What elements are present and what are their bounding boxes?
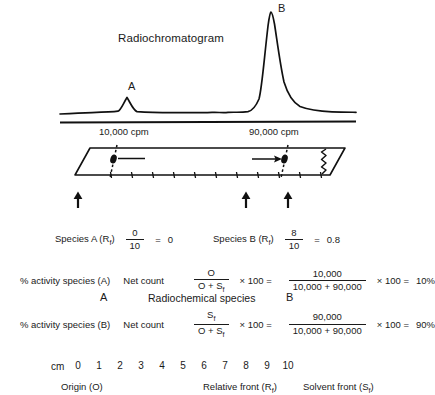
origin-arrow-icon xyxy=(74,192,83,209)
percent-a-numeric-denominator: 10,000 + 90,000 xyxy=(289,280,366,292)
ruler-tick-6: 6 xyxy=(196,360,212,371)
rf-species-b-equals: = xyxy=(314,234,320,245)
rf-species-b-fraction: 8 10 xyxy=(285,228,304,252)
caption-solvent-front-end: ) xyxy=(371,381,374,392)
ruler-tick-2: 2 xyxy=(112,360,128,371)
ruler-tick-5: 5 xyxy=(175,360,191,371)
rf-species-a-result: 0 xyxy=(168,234,173,245)
ruler-panel: cm 0 1 2 3 4 5 6 7 8 9 10 Origin (O) Rel… xyxy=(0,175,405,223)
percent-b-symbolic-denominator: O + Sf xyxy=(194,324,229,339)
chromatogram-baseline-axis xyxy=(60,122,356,123)
ruler-tick-9: 9 xyxy=(259,360,275,371)
ruler-unit-label: cm xyxy=(51,361,64,372)
cpm-label-peak-b: 90,000 cpm xyxy=(249,126,299,137)
percent-b-result: 90% xyxy=(416,319,435,330)
cpm-label-peak-a: 10,000 cpm xyxy=(99,126,149,137)
percent-b-symbolic-numerator: Sf xyxy=(203,310,219,324)
ruler-tick-0: 0 xyxy=(70,360,86,371)
caption-relative-front: Relative front (Rf) xyxy=(203,381,277,395)
percent-activity-b-row: % activity species (B) Net count Sf O + … xyxy=(0,310,405,338)
rf-species-b-result: 0.8 xyxy=(327,234,340,245)
rf-species-b-numerator: 8 xyxy=(287,228,300,239)
percent-a-numeric-fraction: 10,000 10,000 + 90,000 xyxy=(289,269,366,293)
percent-a-symbolic-denominator: O + Sf xyxy=(194,279,229,294)
chromatogram-curve xyxy=(60,12,356,114)
solvent-front-arrow-icon xyxy=(284,192,293,209)
ruler-tick-10: 10 xyxy=(280,360,296,371)
chromatogram-panel: Radiochromatogram A B 10,000 cpm 90,000 … xyxy=(0,0,405,140)
percent-a-times-100-end: × 100 = xyxy=(377,275,409,286)
relative-front-arrow-icon xyxy=(242,192,251,209)
ruler-tick-1: 1 xyxy=(91,360,107,371)
percent-a-label: % activity species (A) xyxy=(20,275,110,286)
ruler-tick-7: 7 xyxy=(217,360,233,371)
rf-species-b-label-end: ) xyxy=(270,233,273,244)
rf-species-a-label-text: Species A (R xyxy=(55,233,109,244)
ruler-tick-8: 8 xyxy=(238,360,254,371)
rf-equation-row: Species A (Rf) 0 10 = 0 Species B (Rf) 8… xyxy=(0,228,405,252)
rf-species-b-label: Species B (Rf) xyxy=(213,233,274,247)
percent-a-symbolic-numerator: O xyxy=(204,268,219,279)
percent-a-result: 10% xyxy=(416,275,435,286)
caption-origin: Origin (O) xyxy=(61,381,103,392)
rf-species-a-fraction: 0 10 xyxy=(126,228,145,252)
percent-b-symbolic-num-sub: f xyxy=(213,314,215,323)
percent-b-symbolic-den-text: O + S xyxy=(198,325,223,336)
ruler-tick-3: 3 xyxy=(133,360,149,371)
caption-origin-text: Origin (O) xyxy=(61,381,103,392)
chromatogram-trace-svg xyxy=(0,0,405,140)
rf-species-a-equals: = xyxy=(155,234,161,245)
percent-a-symbolic-fraction: O O + Sf xyxy=(194,268,229,294)
percent-b-numeric-denominator: 10,000 + 90,000 xyxy=(289,324,366,336)
rf-species-a-numerator: 0 xyxy=(128,228,141,239)
percent-a-net-count-label: Net count xyxy=(123,275,164,286)
percent-b-symbolic-den-sub: f xyxy=(223,330,225,339)
ruler-tick-4: 4 xyxy=(154,360,170,371)
peak-label-a: A xyxy=(128,80,135,92)
rf-species-a-denominator: 10 xyxy=(126,239,145,251)
percent-a-symbolic-den-text: O + S xyxy=(198,280,223,291)
percent-activity-a-row: % activity species (A) Net count O O + S… xyxy=(0,268,405,294)
percent-a-symbolic-den-sub: f xyxy=(223,285,225,294)
caption-relative-front-end: ) xyxy=(274,381,277,392)
percent-a-numeric-numerator: 10,000 xyxy=(309,269,346,280)
percent-b-numeric-fraction: 90,000 10,000 + 90,000 xyxy=(289,312,366,336)
percent-b-net-count-label: Net count xyxy=(123,319,164,330)
chromatogram-title: Radiochromatogram xyxy=(118,32,224,44)
rf-species-a-label: Species A (Rf) xyxy=(55,233,115,247)
percent-b-label: % activity species (B) xyxy=(20,319,110,330)
rf-species-b-denominator: 10 xyxy=(285,239,304,251)
peak-label-b: B xyxy=(278,2,285,14)
percent-b-numeric-numerator: 90,000 xyxy=(309,312,346,323)
percent-a-times-100: × 100 = xyxy=(240,275,272,286)
percent-b-times-100: × 100 = xyxy=(240,319,272,330)
percent-b-symbolic-fraction: Sf O + Sf xyxy=(194,310,229,338)
rf-species-a-label-end: ) xyxy=(111,233,114,244)
caption-solvent-front: Solvent front (Sf) xyxy=(303,381,374,395)
caption-relative-front-text: Relative front (R xyxy=(203,381,272,392)
rf-species-b-label-text: Species B (R xyxy=(213,233,268,244)
percent-b-times-100-end: × 100 = xyxy=(377,319,409,330)
caption-solvent-front-text: Solvent front (S xyxy=(303,381,368,392)
ruler-marker-arrows-svg xyxy=(0,175,405,223)
